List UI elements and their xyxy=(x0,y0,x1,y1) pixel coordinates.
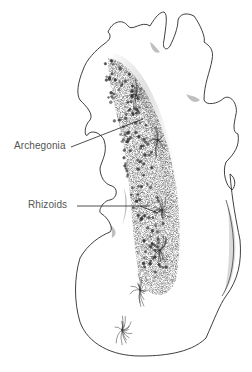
archegonia-label: Archegonia xyxy=(14,140,66,151)
prothallus-drawing xyxy=(0,0,252,372)
prothallus-illustration xyxy=(0,0,252,372)
rhizoids-label: Rhizoids xyxy=(28,199,67,210)
